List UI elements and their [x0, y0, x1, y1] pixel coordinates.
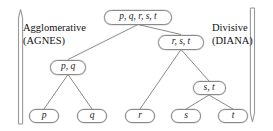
tree-node-st: s, t — [193, 81, 226, 95]
agglomerative-direction-arrow — [19, 10, 23, 125]
tree-node-label: t — [232, 111, 235, 121]
tree-edge-pq-q — [68, 75, 92, 110]
tree-node-r: r — [125, 109, 155, 123]
tree-node-root: p, q, r, s, t — [104, 10, 172, 25]
tree-node-label: s — [184, 111, 188, 121]
tree-node-label: r — [138, 111, 142, 121]
hierarchical-clustering-figure: Agglomerative (AGNES) Divisive (DIANA) p… — [0, 0, 273, 131]
tree-node-rst: r, s, t — [158, 35, 204, 50]
divisive-label: Divisive (DIANA) — [212, 22, 253, 47]
tree-node-t: t — [218, 109, 248, 123]
tree-edge-pq-p — [44, 75, 68, 110]
tree-node-label: s, t — [203, 83, 214, 93]
tree-node-pq: p, q — [50, 60, 86, 75]
tree-node-label: q — [90, 111, 95, 121]
tree-edge-st-s — [186, 95, 209, 109]
tree-node-s: s — [171, 109, 201, 123]
tree-edge-rst-r — [140, 50, 181, 110]
tree-node-q: q — [77, 109, 107, 123]
tree-node-label: p — [42, 111, 47, 121]
tree-edge-rst-st — [181, 50, 209, 82]
tree-node-label: r, s, t — [172, 37, 190, 47]
tree-edge-st-t — [209, 95, 233, 109]
tree-node-p: p — [29, 109, 59, 123]
agglomerative-label: Agglomerative (AGNES) — [23, 22, 86, 47]
tree-node-label: p, q, r, s, t — [119, 12, 156, 22]
tree-edge-root-rst — [138, 25, 181, 35]
tree-node-label: p, q — [61, 62, 75, 72]
